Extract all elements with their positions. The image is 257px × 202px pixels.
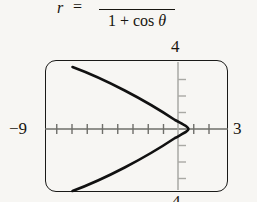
x-axis-min-label: −9 [9,120,27,137]
figure-panel: r = 4 1 + cos θ [0,0,257,202]
polar-equation: r = 4 1 + cos θ [0,0,257,37]
equation-variable: r [57,0,63,16]
y-axis-max-label: 4 [171,38,180,55]
equation-denominator-prefix: 1 + cos [108,12,158,29]
equation-denominator: 1 + cos θ [97,12,177,30]
x-axis-max-label: 3 [233,120,242,137]
y-axis-min-label: 4 [172,193,181,202]
equation-equals-sign: = [73,0,82,15]
theta-symbol: θ [158,12,166,29]
equation-fraction-bar [99,9,175,10]
graph-plot [45,60,228,192]
